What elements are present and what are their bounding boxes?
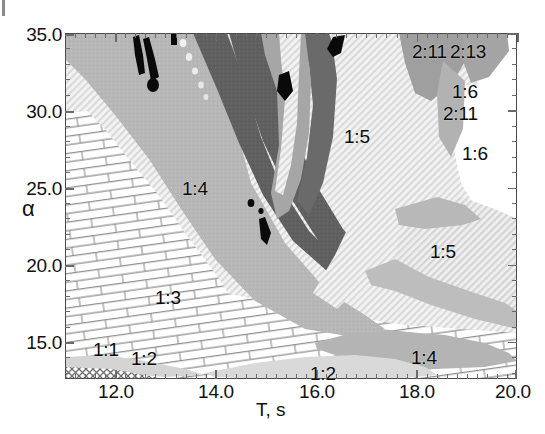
ytick-major-right [508,110,517,112]
ytick-minor [65,311,70,312]
ytick-minor-right [512,327,517,328]
white-dot-1 [180,39,187,47]
xtick-minor-top [165,33,166,38]
xtick-label-14: 14.0 [181,381,251,403]
xtick-minor [266,374,267,379]
scan-artifact-mark [2,0,5,16]
xtick-minor [286,374,287,379]
ytick-minor-right [512,141,517,142]
ytick-minor [65,79,70,80]
xtick-minor-top [135,33,136,38]
region-map-svg [65,33,517,379]
xtick-minor-top [306,33,307,38]
xtick-minor [467,374,468,379]
xtick-major-top [115,33,117,42]
xtick-minor [165,374,166,379]
ytick-minor [65,172,70,173]
xtick-minor [376,374,377,379]
xtick-minor-top [427,33,428,38]
xtick-minor-top [286,33,287,38]
region-label-2-11: 2:11 [443,103,478,125]
xtick-minor [397,374,398,379]
xtick-minor-top [246,33,247,38]
ytick-minor-right [512,218,517,219]
xtick-minor-top [366,33,367,38]
region-label-1-4: 1:4 [411,347,437,369]
xtick-minor-top [376,33,377,38]
xtick-major-top [517,33,519,42]
plot-area [65,33,517,379]
ytick-label-30: 30.0 [0,101,62,123]
region-label-1-1: 1:1 [93,339,119,361]
xtick-label-12: 12.0 [81,381,151,403]
xtick-minor-top [196,33,197,38]
xtick-minor [356,374,357,379]
xtick-minor [497,374,498,379]
ytick-major-20 [65,265,74,267]
xtick-minor [447,374,448,379]
ytick-major-15 [65,342,74,344]
ytick-minor [65,48,70,49]
region-label-1-5: 1:5 [430,241,456,263]
xtick-minor [155,374,156,379]
white-dot-4 [198,82,204,89]
xtick-major-20 [515,370,517,379]
white-dot-2 [186,53,192,61]
xtick-minor [176,374,177,379]
resonance-parameter-map-figure: 35.0 30.0 25.0 20.0 15.0 12.0 14.0 16.0 … [0,0,545,434]
xtick-minor-top [386,33,387,38]
ytick-minor [65,357,70,358]
xtick-minor-top [467,33,468,38]
ytick-minor-right [512,357,517,358]
ytick-major-25 [65,188,74,190]
ytick-minor [65,95,70,96]
ytick-minor-right [512,64,517,65]
region-label-1-2: 1:2 [131,348,157,370]
ytick-label-20: 20.0 [0,255,62,277]
xtick-minor-top [407,33,408,38]
ytick-minor [65,126,70,127]
xtick-minor-top [75,33,76,38]
white-dot-3 [192,67,198,74]
xtick-minor [457,374,458,379]
ytick-minor [65,141,70,142]
xtick-minor-top [226,33,227,38]
xtick-minor-top [497,33,498,38]
xtick-minor-top [145,33,146,38]
xtick-minor-top [336,33,337,38]
region-label-1-6: 1:6 [462,143,488,165]
xtick-minor-top [236,33,237,38]
black-blob-1 [147,78,159,92]
xtick-minor-top [326,33,327,38]
xtick-label-18: 18.0 [382,381,452,403]
xtick-minor [507,374,508,379]
region-label-1-6: 1:6 [452,81,478,103]
xtick-minor-top [85,33,86,38]
ytick-major-right [508,33,517,35]
xtick-minor [306,374,307,379]
xtick-minor [236,374,237,379]
xtick-minor [85,374,86,379]
xtick-minor [477,374,478,379]
y-axis-title: α [22,196,35,222]
ytick-major-35 [65,34,74,36]
ytick-label-15: 15.0 [0,332,62,354]
xtick-minor [186,374,187,379]
xtick-major-14 [215,370,217,379]
xtick-minor-top [266,33,267,38]
region-label-1-2: 1:2 [310,363,336,385]
xtick-minor-top [95,33,96,38]
black-dot-1 [248,199,255,207]
ytick-minor [65,218,70,219]
ytick-minor [65,157,70,158]
xtick-minor [427,374,428,379]
xtick-minor-top [346,33,347,38]
ytick-minor-right [512,157,517,158]
ytick-minor-right [512,79,517,80]
xtick-major-top [316,33,318,42]
xtick-minor [276,374,277,379]
ytick-major-right [508,265,517,267]
xtick-minor-top [155,33,156,38]
ytick-minor-right [512,296,517,297]
region-label-2-13: 2:13 [450,41,486,63]
